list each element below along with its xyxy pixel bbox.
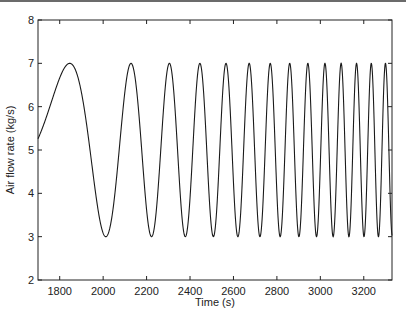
plot-frame: [38, 20, 392, 280]
x-tick-label: 2200: [134, 285, 158, 297]
x-axis-label: Time (s): [195, 296, 235, 308]
y-tick-label: 4: [28, 187, 34, 199]
data-series: [38, 63, 392, 236]
x-tick-label: 3000: [308, 285, 332, 297]
axis-ticks: [38, 20, 392, 280]
x-tick-label: 2000: [91, 285, 115, 297]
y-tick-label: 7: [28, 57, 34, 69]
y-tick-label: 8: [28, 14, 34, 26]
y-tick-label: 2: [28, 274, 34, 286]
y-tick-labels: 2345678: [28, 14, 34, 286]
y-tick-label: 5: [28, 144, 34, 156]
x-tick-label: 2800: [265, 285, 289, 297]
y-tick-label: 6: [28, 101, 34, 113]
x-tick-label: 1800: [47, 285, 71, 297]
line-chart: 18002000220024002600280030003200 2345678…: [0, 0, 406, 324]
y-axis-label: Air flow rate (kg/s): [4, 106, 16, 195]
x-tick-label: 3200: [352, 285, 376, 297]
air-flow-line: [38, 63, 392, 236]
y-tick-label: 3: [28, 231, 34, 243]
